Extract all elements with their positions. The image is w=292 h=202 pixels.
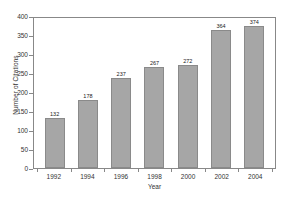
bar-slot: 374 [238, 18, 271, 168]
x-axis-ticks: 1992199419961998200020022004 [33, 171, 276, 183]
x-axis-tick-label: 2002 [205, 171, 239, 183]
bar[interactable] [144, 67, 164, 168]
y-axis-tick-label: 50 [21, 146, 28, 154]
y-axis-tick: 350 [0, 32, 33, 40]
y-axis-tick-label: 0 [24, 165, 28, 173]
x-axis-tick-label: 2004 [238, 171, 272, 183]
bar-value-label: 374 [234, 19, 274, 25]
y-axis-tick: 250 [0, 70, 33, 78]
y-axis-tick: 0 [0, 165, 33, 173]
bar[interactable] [211, 30, 231, 168]
y-axis-tick-label: 250 [17, 70, 28, 78]
x-axis-title: Year [33, 183, 276, 190]
plot-area: 132178237267272364374 [34, 18, 275, 168]
y-axis-ticks: 050100150200250300350400 [0, 17, 33, 169]
bar-chart: Number of Citations 05010015020025030035… [0, 0, 292, 202]
bar[interactable] [111, 78, 131, 168]
y-axis-tick-label: 300 [17, 51, 28, 59]
bar-slot: 364 [204, 18, 237, 168]
y-axis-tick-label: 150 [17, 108, 28, 116]
y-axis-tick-label: 400 [17, 13, 28, 21]
x-axis-tick-label: 2000 [171, 171, 205, 183]
bar[interactable] [45, 118, 65, 168]
x-axis-tick-label: 1994 [71, 171, 105, 183]
bar[interactable] [178, 65, 198, 168]
y-axis-tick: 50 [0, 146, 33, 154]
bar-value-label: 272 [168, 58, 208, 64]
y-axis-tick-label: 100 [17, 127, 28, 135]
bar-slot: 267 [138, 18, 171, 168]
bar-value-label: 132 [35, 111, 75, 117]
y-axis-tick: 100 [0, 127, 33, 135]
y-axis-tick: 400 [0, 13, 33, 21]
y-axis-tick: 200 [0, 89, 33, 97]
y-axis-tick: 300 [0, 51, 33, 59]
y-axis-tick-label: 200 [17, 89, 28, 97]
bar-slot: 178 [71, 18, 104, 168]
y-axis-tick-label: 350 [17, 32, 28, 40]
bar[interactable] [78, 100, 98, 168]
plot-frame: 132178237267272364374 [33, 17, 276, 169]
bar-value-label: 237 [101, 71, 141, 77]
bar-value-label: 178 [68, 93, 108, 99]
bar-slot: 132 [38, 18, 71, 168]
x-axis-tick-label: 1998 [138, 171, 172, 183]
bar[interactable] [244, 26, 264, 168]
x-axis-tick-label: 1996 [104, 171, 138, 183]
x-axis-tick-label: 1992 [37, 171, 71, 183]
y-axis-tick: 150 [0, 108, 33, 116]
bar-slot: 272 [171, 18, 204, 168]
bar-slot: 237 [105, 18, 138, 168]
